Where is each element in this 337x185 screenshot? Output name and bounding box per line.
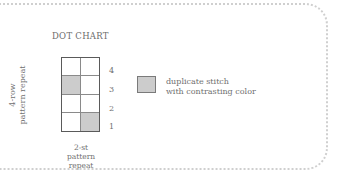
x-axis-label-line2: pattern	[55, 152, 107, 161]
y-axis-label: 4-row pattern repeat	[8, 55, 28, 135]
grid-cell-r3-c1-filled	[62, 76, 81, 94]
x-axis-label-line3: repeat	[55, 161, 107, 170]
row-label-1: 1	[109, 122, 114, 131]
legend-swatch-icon	[137, 76, 156, 93]
grid-cell-r2-c1	[62, 95, 81, 113]
grid-cell-r1-c2-filled	[81, 113, 100, 131]
grid-cell-r2-c2	[81, 95, 100, 113]
dot-chart-grid	[61, 57, 100, 132]
legend-text-line2: with contrasting color	[166, 87, 256, 97]
grid-cell-r1-c1	[62, 113, 81, 131]
row-label-4: 4	[109, 66, 114, 75]
chart-title: DOT CHART	[52, 31, 109, 41]
legend-text-line1: duplicate stitch	[166, 77, 256, 87]
y-axis-label-line2: pattern repeat	[18, 55, 28, 135]
x-axis-label-line1: 2-st	[55, 143, 107, 152]
dotted-frame-border	[0, 3, 328, 170]
legend-text: duplicate stitch with contrasting color	[166, 77, 256, 97]
row-label-2: 2	[109, 104, 114, 113]
y-axis-label-line1: 4-row	[8, 55, 18, 135]
row-label-3: 3	[109, 85, 114, 94]
grid-cell-r4-c2	[81, 58, 100, 76]
x-axis-label: 2-st pattern repeat	[55, 143, 107, 170]
grid-cell-r4-c1	[62, 58, 81, 76]
grid-cell-r3-c2	[81, 76, 100, 94]
